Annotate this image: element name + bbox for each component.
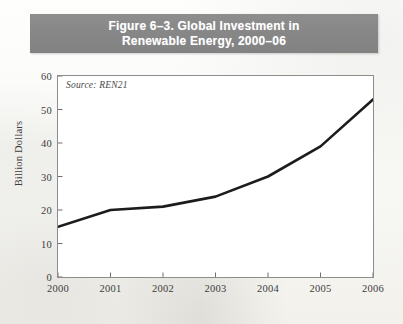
figure-title-line-1: Figure 6–3. Global Investment in [108,19,299,34]
x-axis-tick-label: 2001 [91,283,131,294]
y-axis-tick-label: 0 [32,272,52,283]
x-axis-tick-label: 2005 [301,283,341,294]
figure-title-line-2: Renewable Energy, 2000–06 [122,34,286,49]
y-axis-title: Billion Dollars [13,109,24,199]
y-axis-labels: 0102030405060 [28,0,52,324]
x-axis-tick-label: 2002 [143,283,183,294]
x-axis-tick-label: 2004 [248,283,288,294]
y-axis-tick-label: 10 [32,238,52,249]
line-chart-svg [58,76,373,277]
y-axis-tick-label: 40 [32,138,52,149]
y-axis-tick-label: 60 [32,71,52,82]
y-axis-tick-label: 30 [32,171,52,182]
x-axis-tick-label: 2006 [353,283,393,294]
y-axis-tick-label: 20 [32,205,52,216]
x-axis-tick-label: 2003 [196,283,236,294]
figure-page: Figure 6–3. Global Investment in Renewab… [0,0,403,324]
x-axis-tick-label: 2000 [38,283,78,294]
y-axis-tick-label: 50 [32,104,52,115]
axis-tick-marks [58,76,373,277]
plot-area [57,75,374,278]
data-series-line [58,99,373,226]
source-note: Source: REN21 [66,80,128,90]
figure-title-banner: Figure 6–3. Global Investment in Renewab… [30,14,378,53]
